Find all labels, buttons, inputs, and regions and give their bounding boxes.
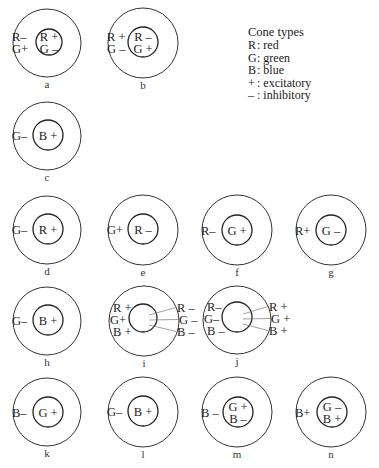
cell-caption: i bbox=[142, 357, 145, 369]
cell-e: R –G+e bbox=[107, 195, 178, 278]
cell-caption: f bbox=[235, 266, 239, 278]
cell-i: R +G+B +R –G –B –i bbox=[109, 286, 198, 369]
cell-caption: m bbox=[233, 448, 242, 460]
cell-l: B +G–l bbox=[107, 377, 178, 460]
surround-left-label: G+ bbox=[12, 42, 28, 56]
surround-left-label: B – bbox=[207, 324, 225, 338]
cell-d: R +G–d bbox=[12, 196, 81, 277]
center-label: G + bbox=[227, 224, 246, 238]
surround-left-label: G– bbox=[12, 129, 28, 143]
center-label: B + bbox=[134, 405, 153, 419]
cell-g: G –R+g bbox=[295, 195, 366, 278]
center-label: G + bbox=[38, 406, 57, 420]
surround-left-label: G– bbox=[107, 405, 123, 419]
center-label: B – bbox=[229, 412, 247, 426]
surround-left-label: G– bbox=[12, 314, 28, 328]
surround-left-label: R– bbox=[201, 224, 216, 238]
cell-caption: d bbox=[44, 265, 50, 277]
surround-left-label: B– bbox=[12, 406, 27, 420]
cell-caption: h bbox=[44, 356, 50, 368]
center-circle bbox=[222, 302, 252, 332]
connector-line bbox=[243, 324, 268, 331]
surround-left-label: B+ bbox=[295, 406, 310, 420]
legend: Cone types R: red G: green B: blue +: ex… bbox=[248, 26, 311, 101]
cell-caption: c bbox=[45, 171, 50, 183]
cell-c: B +G–c bbox=[12, 102, 81, 183]
legend-meaning: : inhibitory bbox=[257, 88, 311, 102]
center-circle bbox=[129, 304, 157, 332]
receptive-field-diagram: R +G –R–G+aR –G +R +G –bB +G–cR +G–dR –G… bbox=[0, 0, 379, 468]
center-label: R – bbox=[134, 223, 152, 237]
surround-left-label: G– bbox=[12, 223, 28, 237]
legend-symbol: R bbox=[248, 39, 257, 51]
cell-k: G +B–k bbox=[12, 378, 81, 459]
surround-left-label: G – bbox=[107, 42, 126, 56]
center-label: R + bbox=[39, 223, 58, 237]
legend-symbol: – bbox=[248, 89, 257, 101]
cell-caption: e bbox=[141, 266, 146, 278]
center-label: B + bbox=[323, 412, 342, 426]
cell-caption: n bbox=[328, 448, 334, 460]
center-label: G + bbox=[133, 42, 152, 56]
cell-caption: g bbox=[328, 266, 334, 278]
cell-b: R –G +R +G –b bbox=[107, 8, 178, 91]
connector-line bbox=[243, 319, 270, 320]
legend-symbol: B bbox=[248, 64, 257, 76]
legend-item-inhibitory: –: inhibitory bbox=[248, 89, 311, 101]
cell-caption: a bbox=[45, 78, 50, 90]
surround-left-label: R+ bbox=[295, 224, 310, 238]
connector-line bbox=[149, 320, 178, 321]
cell-a: R +G –R–G+a bbox=[12, 9, 81, 90]
cell-h: B +G–h bbox=[12, 287, 81, 368]
connector-line bbox=[243, 307, 268, 315]
cell-f: G +R–f bbox=[201, 195, 272, 278]
cell-j: R–G–B –R +G +B +j bbox=[203, 286, 290, 367]
surround-right-label: B + bbox=[269, 324, 288, 338]
cell-caption: l bbox=[141, 448, 144, 460]
cell-caption: j bbox=[234, 355, 238, 367]
surround-left-label: G+ bbox=[107, 223, 123, 237]
cell-m: G +B –B –m bbox=[201, 377, 272, 460]
cell-caption: k bbox=[44, 447, 50, 459]
cell-n: G –B +B+n bbox=[295, 377, 366, 460]
surround-right-label: B – bbox=[177, 325, 195, 339]
surround-left-label: B + bbox=[113, 325, 132, 339]
legend-title: Cone types bbox=[248, 26, 311, 38]
center-label: G – bbox=[40, 42, 59, 56]
center-label: G – bbox=[322, 224, 341, 238]
cell-caption: b bbox=[140, 79, 146, 91]
center-label: B + bbox=[39, 314, 58, 328]
center-label: B + bbox=[39, 129, 58, 143]
surround-left-label: B – bbox=[201, 406, 219, 420]
